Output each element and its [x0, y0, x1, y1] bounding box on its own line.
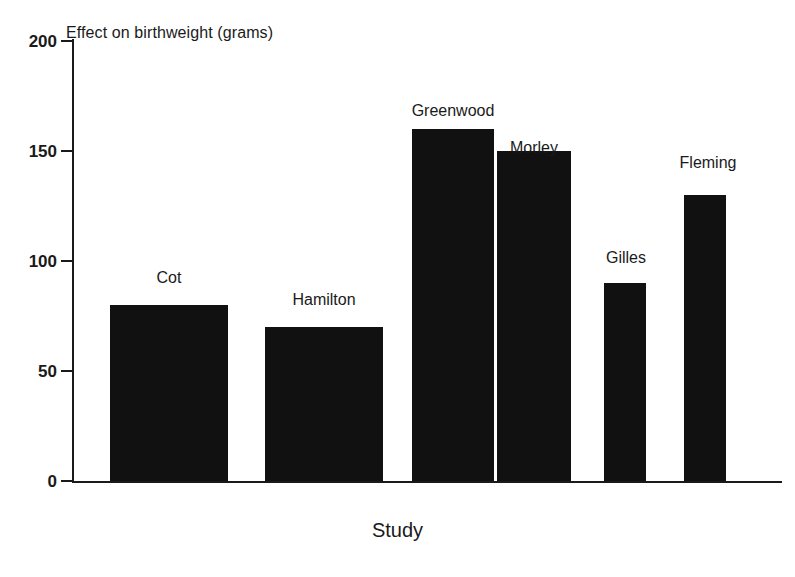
bar-cot	[110, 305, 228, 481]
bar-label-hamilton: Hamilton	[265, 292, 383, 308]
bar-label-greenwood: Greenwood	[393, 103, 513, 119]
bar-gilles	[604, 283, 646, 481]
bar-morley	[497, 151, 571, 481]
x-axis-title: Study	[0, 519, 795, 542]
bar-greenwood	[412, 129, 494, 481]
bar-label-cot: Cot	[110, 270, 228, 286]
bar-label-gilles: Gilles	[591, 250, 661, 266]
bar-hamilton	[265, 327, 383, 481]
x-axis-line	[72, 481, 782, 483]
bar-fleming	[684, 195, 726, 481]
bar-label-fleming: Fleming	[668, 155, 748, 171]
bars-layer: Cot Hamilton Greenwood Morley Gilles Fle…	[0, 0, 795, 481]
bar-label-morley: Morley	[494, 140, 574, 156]
bar-chart-figure: Effect on birthweight (grams) 200 150 10…	[0, 0, 795, 577]
